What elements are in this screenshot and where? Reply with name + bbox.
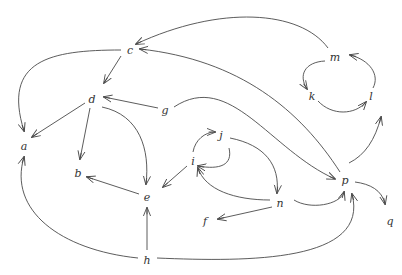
edge-j-to-n bbox=[230, 138, 277, 193]
node-k: k bbox=[309, 91, 316, 102]
edge-p-to-q bbox=[355, 182, 385, 204]
edge-m-to-k bbox=[303, 61, 325, 89]
edge-n-to-p bbox=[294, 192, 344, 205]
node-d: d bbox=[88, 94, 95, 105]
node-a: a bbox=[21, 141, 28, 152]
edge-c-to-d bbox=[104, 56, 121, 83]
directed-graph-canvas bbox=[0, 0, 402, 275]
edge-c-to-a bbox=[19, 50, 121, 131]
node-c: c bbox=[127, 45, 133, 56]
edge-n-to-f bbox=[218, 207, 272, 219]
node-e: e bbox=[144, 192, 151, 203]
node-l: l bbox=[369, 91, 373, 102]
edge-j-to-i bbox=[198, 148, 230, 167]
edge-e-to-b bbox=[87, 177, 139, 194]
node-f: f bbox=[203, 216, 207, 227]
node-q: q bbox=[386, 216, 393, 227]
edge-d-to-b bbox=[80, 108, 90, 159]
edge-p-to-l bbox=[349, 117, 381, 163]
node-g: g bbox=[161, 105, 168, 116]
node-i: i bbox=[191, 156, 195, 167]
node-m: m bbox=[330, 52, 340, 63]
node-b: b bbox=[74, 168, 81, 179]
node-n: n bbox=[276, 198, 283, 209]
edge-k-to-l bbox=[318, 101, 366, 112]
edge-g-to-d bbox=[104, 97, 158, 108]
node-j: j bbox=[219, 130, 222, 141]
edge-d-to-e bbox=[102, 107, 147, 184]
edge-n-to-i bbox=[198, 168, 270, 200]
edge-i-to-j bbox=[193, 132, 215, 152]
edge-g-to-p bbox=[174, 97, 335, 179]
edge-i-to-e bbox=[163, 166, 187, 187]
edge-h-to-p bbox=[157, 194, 354, 259]
edge-d-to-a bbox=[32, 103, 85, 137]
node-h: h bbox=[143, 255, 150, 266]
node-p: p bbox=[341, 175, 348, 186]
edge-m-to-c bbox=[136, 17, 328, 48]
edge-l-to-m bbox=[350, 55, 375, 88]
